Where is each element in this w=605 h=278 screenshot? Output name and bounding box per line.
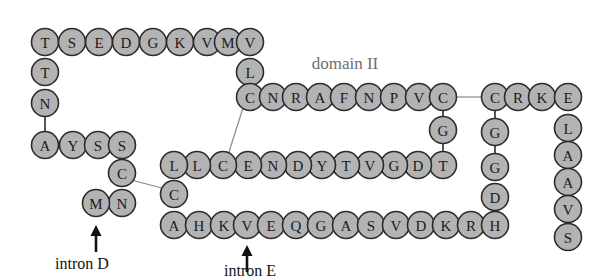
residue-circle [555,142,582,169]
residue-g-r32[interactable]: G [381,152,408,179]
residue-h-r56[interactable]: H [482,212,509,239]
residue-a-r43[interactable]: A [161,212,188,239]
residue-circle [555,115,582,142]
residue-r-r22[interactable]: R [283,84,310,111]
residue-d-r31[interactable]: D [405,152,432,179]
residue-s-r68[interactable]: S [555,224,582,251]
residue-circle [85,132,112,159]
residue-n-r25[interactable]: N [356,84,383,111]
residue-h-r44[interactable]: H [186,212,213,239]
residue-p-r26[interactable]: P [381,84,408,111]
residue-s-r51[interactable]: S [358,212,385,239]
residue-circle [333,212,360,239]
residue-a-r12[interactable]: A [32,132,59,159]
residue-v-r33[interactable]: V [357,152,384,179]
residue-g-r29[interactable]: G [430,117,457,144]
residue-v-r52[interactable]: V [383,212,410,239]
residue-e-r63[interactable]: E [555,84,582,111]
residue-circle [309,152,336,179]
residue-group: TSEDGKVMVTNAYSSCNMLCNRAFNPVCGTDGVTYDNECL… [32,29,582,251]
residue-circle [258,212,285,239]
residue-k-r54[interactable]: K [433,212,460,239]
residue-circle [109,190,136,217]
residue-a-r23[interactable]: A [307,84,334,111]
residue-l-r41[interactable]: L [161,152,188,179]
residue-circle [109,132,136,159]
residue-n-r17[interactable]: N [109,190,136,217]
residue-g-r59[interactable]: G [482,119,509,146]
residue-f-r24[interactable]: F [331,84,358,111]
residue-s-r14[interactable]: S [85,132,112,159]
residue-s-r15[interactable]: S [109,132,136,159]
residue-y-r13[interactable]: Y [60,132,87,159]
residue-d-r57[interactable]: D [482,184,509,211]
residue-circle [555,169,582,196]
residue-g-r5[interactable]: G [140,29,167,56]
residue-circle [333,152,360,179]
residue-l-r64[interactable]: L [555,115,582,142]
residue-v-r67[interactable]: V [555,196,582,223]
bond-c16-c42 [131,180,166,189]
residue-circle [529,84,556,111]
residue-y-r35[interactable]: Y [309,152,336,179]
residue-t-r34[interactable]: T [333,152,360,179]
residue-v-r46[interactable]: V [234,212,261,239]
residue-e-r3[interactable]: E [86,29,113,56]
residue-n-r37[interactable]: N [260,152,287,179]
residue-circle [161,181,188,208]
residue-d-r4[interactable]: D [113,29,140,56]
residue-a-r66[interactable]: A [555,169,582,196]
residue-circle [283,84,310,111]
residue-circle [406,84,433,111]
residue-n-r11[interactable]: N [32,90,59,117]
residue-circle [555,224,582,251]
residue-circle [381,84,408,111]
residue-l-r19[interactable]: L [237,59,264,86]
residue-circle [433,212,460,239]
residue-s-r2[interactable]: S [59,29,86,56]
residue-t-r30[interactable]: T [430,152,457,179]
residue-v-r9[interactable]: V [237,29,264,56]
residue-circle [458,212,485,239]
residue-q-r48[interactable]: Q [283,212,310,239]
residue-circle [237,29,264,56]
residue-circle [83,190,110,217]
residue-circle [381,152,408,179]
residue-a-r65[interactable]: A [555,142,582,169]
residue-circle [161,152,188,179]
residue-t-r1[interactable]: T [32,29,59,56]
residue-circle [405,152,432,179]
residue-d-r53[interactable]: D [408,212,435,239]
residue-r-r55[interactable]: R [458,212,485,239]
residue-c-r28[interactable]: C [430,84,457,111]
residue-a-r50[interactable]: A [333,212,360,239]
residue-k-r62[interactable]: K [529,84,556,111]
residue-circle [260,152,287,179]
residue-circle [430,84,457,111]
residue-e-r38[interactable]: E [235,152,262,179]
residue-g-r58[interactable]: G [482,154,509,181]
residue-t-r10[interactable]: T [32,59,59,86]
residue-circle [430,117,457,144]
intron-d-arrow-head [91,225,102,236]
residue-r-r61[interactable]: R [505,84,532,111]
residue-c-r39[interactable]: C [210,152,237,179]
residue-circle [235,152,262,179]
residue-circle [32,59,59,86]
residue-circle [113,29,140,56]
residue-c-r42[interactable]: C [161,181,188,208]
residue-e-r47[interactable]: E [258,212,285,239]
residue-d-r36[interactable]: D [285,152,312,179]
residue-circle [430,152,457,179]
residue-circle [234,212,261,239]
intron-e-label: intron E [224,262,276,278]
residue-m-r18[interactable]: M [83,190,110,217]
residue-circle [482,212,509,239]
residue-v-r27[interactable]: V [406,84,433,111]
bond-c20-c39 [228,108,243,155]
intron-e-arrow-head [242,245,253,256]
residue-g-r49[interactable]: G [308,212,335,239]
residue-c-r16[interactable]: C [109,160,136,187]
residue-circle [32,132,59,159]
residue-k-r6[interactable]: K [167,29,194,56]
